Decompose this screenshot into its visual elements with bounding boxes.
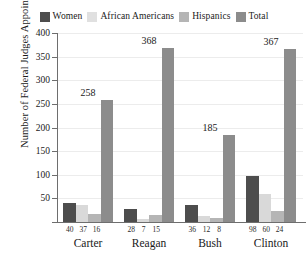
legend-swatch-african-americans bbox=[87, 12, 97, 22]
y-axis-tick bbox=[52, 151, 57, 152]
y-axis-tick bbox=[52, 128, 57, 129]
sub-value-label: 8 bbox=[214, 225, 225, 234]
bar-african-americans[interactable] bbox=[137, 219, 150, 222]
legend-label-total: Total bbox=[249, 12, 269, 22]
bar-hispanics[interactable] bbox=[210, 218, 223, 222]
sub-value-label: 60 bbox=[259, 225, 272, 234]
sub-value-label: 40 bbox=[63, 225, 76, 234]
y-axis-tick-label: 50 bbox=[41, 193, 51, 203]
y-axis-tick bbox=[52, 222, 57, 223]
x-axis-group-label: Carter bbox=[63, 237, 113, 249]
legend-item-hispanics: Hispanics bbox=[179, 12, 230, 22]
bar-group-clinton: 3679860240Clinton bbox=[246, 33, 296, 222]
bars bbox=[124, 33, 174, 222]
y-axis-tick-label: 150 bbox=[36, 146, 50, 156]
bars bbox=[63, 33, 113, 222]
y-axis-tick bbox=[52, 33, 57, 34]
bar-total[interactable] bbox=[101, 100, 114, 222]
bar-hispanics[interactable] bbox=[149, 215, 162, 222]
sub-value-labels: 287150 bbox=[124, 225, 174, 234]
legend-item-total: Total bbox=[236, 12, 269, 22]
y-axis-tick bbox=[52, 57, 57, 58]
x-axis-group-label: Clinton bbox=[246, 237, 296, 249]
bar-total[interactable] bbox=[284, 49, 297, 222]
sub-value-labels: 9860240 bbox=[246, 225, 296, 234]
legend-label-women: Women bbox=[53, 12, 83, 22]
sub-value-label: 37 bbox=[76, 225, 89, 234]
sub-value-label: 36 bbox=[185, 225, 199, 234]
x-axis-line bbox=[57, 222, 306, 223]
y-axis-tick-label: 100 bbox=[36, 170, 50, 180]
bar-hispanics[interactable] bbox=[271, 211, 284, 222]
y-axis-tick-label: 250 bbox=[36, 99, 50, 109]
y-axis-tick bbox=[52, 80, 57, 81]
y-axis-tick-label: 300 bbox=[36, 75, 50, 85]
legend-label-african-americans: African Americans bbox=[100, 12, 174, 22]
bar-women[interactable] bbox=[185, 205, 198, 222]
legend-item-women: Women bbox=[40, 12, 83, 22]
legend-swatch-women bbox=[40, 12, 50, 22]
sub-value-label: 98 bbox=[246, 225, 259, 234]
bar-women[interactable] bbox=[124, 209, 137, 222]
bar-group-reagan: 368287150Reagan bbox=[124, 33, 174, 222]
sub-value-label: 24 bbox=[273, 225, 286, 234]
legend-item-african-americans: African Americans bbox=[87, 12, 174, 22]
y-axis-title: Number of Federal Judges Appointed bbox=[19, 0, 30, 158]
legend-swatch-total bbox=[236, 12, 246, 22]
bar-african-americans[interactable] bbox=[198, 216, 211, 222]
x-axis-group-label: Bush bbox=[185, 237, 235, 249]
sub-value-labels: 361280 bbox=[185, 225, 235, 234]
sub-value-label: 12 bbox=[199, 225, 213, 234]
y-axis-tick bbox=[52, 175, 57, 176]
sub-value-label: 15 bbox=[149, 225, 163, 234]
sub-value-labels: 4037160 bbox=[63, 225, 113, 234]
bar-total[interactable] bbox=[223, 135, 236, 222]
x-axis-group-label: Reagan bbox=[124, 237, 174, 249]
plot-area: 50100150200250300350400 2584037160Carter… bbox=[57, 33, 303, 222]
sub-value-label: 16 bbox=[90, 225, 103, 234]
bar-women[interactable] bbox=[246, 176, 259, 222]
sub-value-label: 7 bbox=[138, 225, 149, 234]
chart-legend: Women African Americans Hispanics Total bbox=[0, 9, 308, 25]
bar-african-americans[interactable] bbox=[76, 205, 89, 222]
y-axis-tick bbox=[52, 104, 57, 105]
y-axis-tick bbox=[52, 198, 57, 199]
bars bbox=[246, 33, 296, 222]
legend-label-hispanics: Hispanics bbox=[192, 12, 230, 22]
bar-african-americans[interactable] bbox=[259, 194, 272, 222]
bar-group-bush: 185361280Bush bbox=[185, 33, 235, 222]
bar-women[interactable] bbox=[63, 203, 76, 222]
y-axis-tick-label: 400 bbox=[36, 28, 50, 38]
bar-chart: Women African Americans Hispanics Total … bbox=[0, 0, 308, 261]
bar-total[interactable] bbox=[162, 48, 175, 222]
bar-group-carter: 2584037160Carter bbox=[63, 33, 113, 222]
bar-hispanics[interactable] bbox=[88, 214, 101, 222]
y-axis-tick-label: 350 bbox=[36, 52, 50, 62]
sub-value-label: 28 bbox=[124, 225, 138, 234]
y-axis-tick-label: 200 bbox=[36, 123, 50, 133]
legend-swatch-hispanics bbox=[179, 12, 189, 22]
bars bbox=[185, 33, 235, 222]
